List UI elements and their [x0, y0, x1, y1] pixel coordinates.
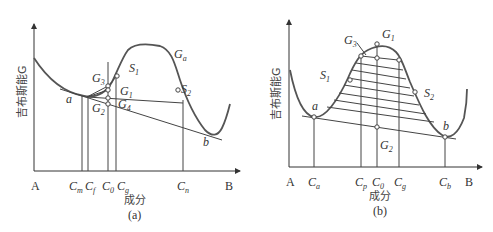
point-g4-a: [106, 96, 110, 100]
g3-leader: [357, 43, 366, 55]
point-b-b: [443, 135, 447, 139]
label-s2-a: S2: [181, 82, 191, 98]
caption-a: (a): [128, 208, 141, 222]
point-a-b: [312, 115, 316, 119]
x-axis-label-b: 成分: [369, 190, 391, 203]
gibbs-energy-diagram: A B a b Ga S1 S2 G3 G1 G2 G4 Cm Cf C0 Cg…: [0, 0, 493, 232]
point-g3-left-b: [359, 54, 363, 58]
panel-a: A B a b Ga S1 S2 G3 G1 G2 G4 Cm Cf C0 Cg…: [15, 24, 240, 222]
y-axis-label-b: 吉布斯能G: [269, 67, 283, 120]
label-g3-b: G3: [344, 33, 357, 49]
point-s2-a: [176, 88, 180, 92]
tick-ca: Ca: [308, 175, 320, 191]
label-s1-a: S1: [129, 61, 139, 77]
point-cg-top-b: [397, 58, 401, 62]
caption-b: (b): [373, 204, 387, 218]
label-b-b: b: [443, 119, 449, 133]
label-s2-b: S2: [424, 86, 434, 102]
label-g3-a: G3: [92, 71, 105, 87]
label-A-a: A: [31, 179, 40, 193]
tangent-line-a: [60, 89, 222, 140]
tick-cg-b: Cg: [394, 175, 406, 191]
panel-b: A B a b G1 G3 S1 S2 G2 Ca Cp C0 Cg Cb 成分…: [269, 20, 482, 218]
x-axis-label-a: 成分: [124, 194, 146, 207]
label-ga: Ga: [174, 47, 187, 63]
tick-cp: Cp: [355, 175, 367, 191]
point-g2-b: [375, 125, 379, 129]
tick-cn: Cn: [177, 179, 189, 195]
point-g1-b: [375, 42, 379, 46]
point-s1-a: [115, 74, 119, 78]
point-s1-b: [348, 78, 352, 82]
label-s1-b: S1: [320, 68, 330, 84]
tick-cg-a: Cg: [117, 179, 129, 195]
label-a-a: a: [66, 92, 72, 106]
tick-cm: Cm: [69, 179, 83, 195]
tick-c0-b: C0: [372, 175, 384, 191]
tick-cb: Cb: [439, 175, 451, 191]
label-g1-b: G1: [382, 27, 395, 43]
point-g2-a: [106, 102, 110, 106]
tick-c0-a: C0: [102, 179, 114, 195]
label-a-b: a: [312, 99, 318, 113]
point-s2-b: [413, 90, 417, 94]
label-A-b: A: [286, 175, 295, 189]
y-axis-label-a: 吉布斯能G: [15, 65, 29, 118]
label-g2-a: G2: [92, 101, 105, 117]
point-g1-a: [106, 88, 110, 92]
tick-cf: Cf: [85, 179, 97, 195]
label-b-a: b: [203, 135, 209, 149]
label-g2-b: G2: [380, 138, 393, 154]
label-B-a: B: [225, 179, 233, 193]
label-B-b: B: [465, 175, 473, 189]
point-g3-b: [375, 56, 379, 60]
